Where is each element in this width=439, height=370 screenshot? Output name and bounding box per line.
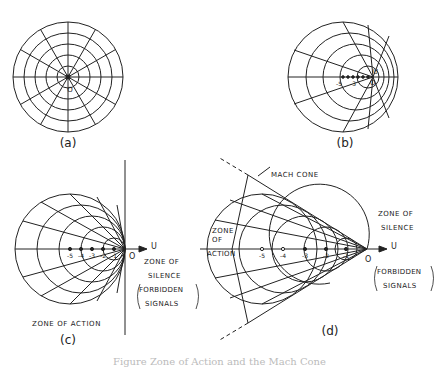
- panel-c-zone-of-silence-line2: SILENCE: [148, 272, 181, 280]
- panel-c-zone-of-action: ZONE OF ACTION: [32, 320, 101, 328]
- panel-d-zone-of-action-line2: OF: [212, 236, 223, 244]
- panel-b-diagram: [288, 22, 398, 132]
- panel-c-tick: -3: [89, 252, 95, 259]
- panel-d-mach-cone-label: MACH CONE: [271, 171, 319, 179]
- panel-b-tick-minus-3: -3: [350, 80, 356, 87]
- panel-d-zone-of-action-line1: ZONE: [212, 227, 234, 235]
- panel-d-diagram: [200, 157, 387, 341]
- panel-c-tick: -4: [78, 252, 84, 259]
- panel-c-label: (c): [60, 333, 76, 347]
- panel-d-zone-of-silence-line2: SILENCE: [381, 224, 414, 232]
- panel-c-axis-label: U: [151, 242, 157, 251]
- panel-b-label: (b): [337, 136, 354, 150]
- panel-d-forbidden-line2: SIGNALS: [383, 282, 417, 290]
- panel-d-zone-of-action-line3: ACTION: [207, 250, 235, 258]
- panel-c-tick: -1: [111, 252, 117, 259]
- panel-d-origin-label: O: [365, 255, 371, 264]
- panel-d-tick: -5: [259, 252, 265, 259]
- panel-a-label: (a): [60, 136, 77, 150]
- panel-c-diagram: [15, 160, 147, 335]
- panel-d-tick: -1: [343, 252, 349, 259]
- figure-caption: Figure Zone of Action and the Mach Cone: [0, 356, 439, 367]
- panel-d-tick: -2: [323, 252, 329, 259]
- panel-c-zone-of-silence-line1: ZONE OF: [144, 258, 179, 266]
- panel-c-tick: -2: [100, 252, 106, 259]
- panel-d-forbidden-line1: FORBIDDEN: [377, 268, 421, 276]
- panel-a-diagram: [13, 22, 123, 132]
- panel-c-forbidden-line2: SIGNALS: [145, 300, 179, 308]
- panel-a-origin-label: O: [67, 86, 73, 94]
- panel-d-tick: -4: [280, 252, 286, 259]
- panel-d-label: (d): [322, 324, 339, 338]
- panel-d-axis-label: U: [391, 242, 397, 251]
- panel-d-tick: -3: [302, 252, 308, 259]
- panel-b-tick-minus-5: -5: [336, 80, 342, 87]
- panel-b-origin-label: O: [370, 79, 376, 87]
- panel-c-tick: -5: [67, 252, 73, 259]
- panel-d-zone-of-silence-line1: ZONE OF: [378, 210, 413, 218]
- panel-c-forbidden-line1: FORBIDDEN: [139, 286, 183, 294]
- mach-cone-diagram: (a) O (b) U O -5 -3 -5 -4 -3 -2 -1 O U Z…: [0, 0, 439, 370]
- panel-c-origin-label: O: [129, 252, 135, 261]
- panel-b-velocity-label: U: [373, 68, 378, 76]
